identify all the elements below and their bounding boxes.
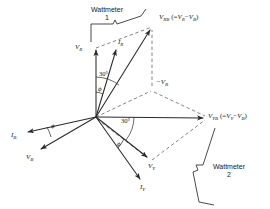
label-i-r: IR: [118, 39, 123, 47]
label-minus-v-b-sub: B: [165, 82, 168, 87]
label-v-r-sub: R: [79, 47, 82, 52]
label-minus-v-b: −VB: [156, 79, 168, 87]
annotation-wattmeter-2-line2: 2: [200, 171, 258, 179]
annotation-wattmeter-1: Wattmeter 1: [78, 6, 136, 22]
angle-label-30-upper: 30°: [99, 71, 108, 78]
vector-v-b: [41, 117, 96, 149]
annotation-wattmeter-1-line2: 1: [78, 14, 136, 22]
angle-label-phi-y: ϕ: [117, 141, 121, 148]
angle-label-phi-r: ϕ: [98, 86, 102, 93]
phasor-vectors-group: [28, 30, 203, 179]
label-i-b-sub: B: [13, 135, 16, 140]
label-i-y-sub: Y: [142, 187, 145, 192]
label-v-yb-close: ): [245, 112, 247, 120]
label-v-yb: VYB (=VY−VB): [208, 113, 247, 121]
annotation-wattmeter-2-line1: Wattmeter: [200, 163, 258, 171]
construction-line-vr-to-vrb: [96, 27, 152, 48]
label-i-r-sub: R: [120, 42, 123, 47]
label-v-rb-close: ): [196, 13, 198, 21]
annotation-wattmeter-2: Wattmeter 2: [200, 163, 258, 179]
label-v-b-sub: B: [30, 157, 33, 162]
construction-line-vy-to-vyb: [152, 120, 205, 160]
label-minus-v-b-base: −V: [156, 78, 165, 86]
angle-label-30-lower: 30°: [121, 118, 130, 125]
label-i-y: IY: [140, 184, 145, 192]
label-v-rb: VRB (=VR−VB): [159, 14, 198, 22]
label-v-b: VB: [26, 154, 33, 162]
label-v-y: VY: [148, 163, 155, 171]
phasor-diagram-figure: VR IR VRB (=VR−VB) −VB VYB (=VY−VB) VY I…: [0, 0, 270, 209]
label-v-y-sub: Y: [152, 166, 155, 171]
annotation-wattmeter-1-line1: Wattmeter: [78, 6, 136, 14]
vector-v-yb: [96, 117, 203, 118]
angle-label-phi-b: ϕ: [51, 123, 55, 130]
vector-i-b: [28, 117, 96, 132]
label-v-yb-open: (=: [218, 112, 226, 120]
vector-i-r: [96, 50, 116, 117]
construction-line-minusvb-to-vyb: [154, 92, 205, 116]
label-v-r: VR: [75, 44, 82, 52]
label-i-b: IB: [11, 132, 16, 140]
